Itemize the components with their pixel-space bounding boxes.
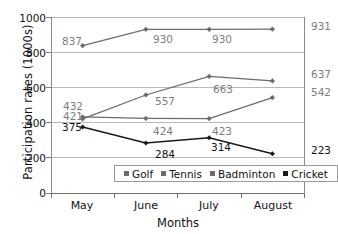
data-label: 284 <box>155 149 175 160</box>
x-tick-label-july: July <box>179 199 239 212</box>
gridline-1000 <box>51 17 305 18</box>
y-tick-label-800: 800 <box>12 48 46 59</box>
data-label: 930 <box>212 34 232 45</box>
data-point-tennis-august <box>270 78 275 83</box>
series-line-badminton <box>83 98 273 119</box>
chart-legend: GolfTennisBadmintonCricket <box>114 165 338 182</box>
data-label: 314 <box>211 142 231 153</box>
data-label: 542 <box>311 87 331 98</box>
data-label: 557 <box>155 96 175 107</box>
x-tick-mark <box>114 193 115 198</box>
data-label: 375 <box>62 122 82 133</box>
x-tick-label-may: May <box>52 199 112 212</box>
legend-swatch-icon <box>210 171 215 176</box>
data-label: 424 <box>153 126 173 137</box>
legend-swatch-icon <box>161 171 166 176</box>
x-tick-mark <box>177 193 178 198</box>
data-label: 663 <box>213 84 233 95</box>
data-point-cricket-july <box>207 135 212 140</box>
y-tick-label-400: 400 <box>12 118 46 129</box>
legend-label: Badminton <box>218 168 275 180</box>
x-tick-mark <box>241 193 242 198</box>
x-tick-label-august: August <box>243 199 303 212</box>
legend-item-badminton[interactable]: Badminton <box>210 168 275 180</box>
x-tick-mark <box>304 193 305 198</box>
data-point-cricket-august <box>270 151 275 156</box>
legend-item-golf[interactable]: Golf <box>124 168 153 180</box>
data-point-cricket-june <box>143 140 148 145</box>
data-point-badminton-august <box>270 95 275 100</box>
legend-item-cricket[interactable]: Cricket <box>283 168 328 180</box>
data-label: 423 <box>212 126 232 137</box>
y-tick-label-200: 200 <box>12 153 46 164</box>
y-tick-label-600: 600 <box>12 83 46 94</box>
data-label: 930 <box>153 34 173 45</box>
legend-swatch-icon <box>124 171 129 176</box>
data-label: 837 <box>62 36 82 47</box>
gridline-600 <box>51 87 305 88</box>
data-point-tennis-july <box>207 74 212 79</box>
data-label: 421 <box>63 111 83 122</box>
legend-label: Tennis <box>169 168 202 180</box>
y-tick-label-1000: 1000 <box>12 13 46 24</box>
series-line-tennis <box>83 76 273 119</box>
y-axis-ticks: 1000 800 600 400 200 0 <box>12 0 46 234</box>
x-axis-title: Months <box>51 216 305 230</box>
data-label: 223 <box>311 145 331 156</box>
legend-label: Golf <box>132 168 153 180</box>
series-line-cricket <box>83 127 273 154</box>
data-point-golf-july <box>207 27 212 32</box>
x-tick-mark <box>51 193 52 198</box>
data-point-badminton-july <box>207 116 212 121</box>
gridline-400 <box>51 122 305 123</box>
legend-item-tennis[interactable]: Tennis <box>161 168 202 180</box>
data-point-golf-june <box>143 27 148 32</box>
x-tick-label-june: June <box>116 199 176 212</box>
data-label: 637 <box>311 69 331 80</box>
data-point-badminton-june <box>143 116 148 121</box>
x-axis-line <box>51 193 305 194</box>
gridline-200 <box>51 157 305 158</box>
data-label: 931 <box>311 21 331 32</box>
y-tick-label-0: 0 <box>12 188 46 199</box>
legend-swatch-icon <box>283 171 288 176</box>
data-point-golf-august <box>270 27 275 32</box>
plot-left-border <box>51 17 52 193</box>
series-line-golf <box>83 29 273 46</box>
gridline-800 <box>51 52 305 53</box>
legend-label: Cricket <box>291 168 328 180</box>
data-point-tennis-june <box>143 92 148 97</box>
